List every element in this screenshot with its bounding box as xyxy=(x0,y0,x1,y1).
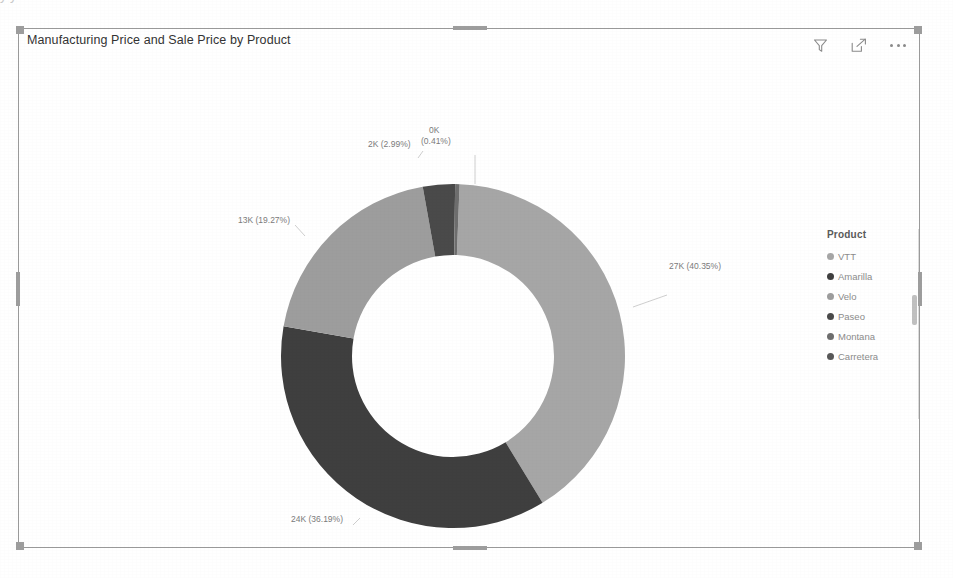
legend-scrollbar-thumb[interactable] xyxy=(912,295,917,325)
leader-line xyxy=(633,295,667,307)
resize-handle-top-right[interactable] xyxy=(914,26,922,34)
clipped-text: y y xyxy=(0,0,17,3)
report-visual-container[interactable]: Manufacturing Price and Sale Price by Pr… xyxy=(18,28,920,548)
legend-swatch-icon xyxy=(827,353,834,360)
legend-item-paseo[interactable]: Paseo xyxy=(827,307,905,325)
legend-swatch-icon xyxy=(827,293,834,300)
legend-item-label: Carretera xyxy=(838,351,878,362)
legend-divider xyxy=(918,229,919,419)
resize-handle-top-left[interactable] xyxy=(16,26,24,34)
visual-title: Manufacturing Price and Sale Price by Pr… xyxy=(27,33,291,47)
slice-label-velo: 13K (19.27%) xyxy=(238,215,290,225)
legend-item-carretera[interactable]: Carretera xyxy=(827,347,905,365)
visual-header: Manufacturing Price and Sale Price by Pr… xyxy=(19,29,919,59)
resize-handle-top-center[interactable] xyxy=(453,26,487,30)
slice-label-montana-value: 0K xyxy=(429,125,439,135)
leader-line xyxy=(418,151,423,158)
donut-slice-velo[interactable] xyxy=(284,187,436,339)
leader-line xyxy=(353,518,360,525)
donut-slice-amarilla[interactable] xyxy=(281,326,543,528)
legend: Product VTTAmarillaVeloPaseoMontanaCarre… xyxy=(827,229,905,367)
legend-item-vtt[interactable]: VTT xyxy=(827,247,905,265)
resize-handle-middle-left[interactable] xyxy=(16,272,20,306)
slice-label-amarilla: 24K (36.19%) xyxy=(291,514,343,524)
focus-mode-icon[interactable] xyxy=(848,34,870,56)
legend-item-label: Montana xyxy=(838,331,875,342)
legend-item-velo[interactable]: Velo xyxy=(827,287,905,305)
legend-items: VTTAmarillaVeloPaseoMontanaCarretera xyxy=(827,247,905,365)
legend-item-label: Velo xyxy=(838,291,857,302)
legend-item-montana[interactable]: Montana xyxy=(827,327,905,345)
legend-swatch-icon xyxy=(827,253,834,260)
slice-label-vtt: 27K (40.35%) xyxy=(669,261,721,271)
resize-handle-bottom-left[interactable] xyxy=(16,542,24,550)
legend-item-amarilla[interactable]: Amarilla xyxy=(827,267,905,285)
legend-item-label: Amarilla xyxy=(838,271,872,282)
leader-line xyxy=(295,225,305,236)
more-options-icon[interactable] xyxy=(887,34,909,56)
filter-icon[interactable] xyxy=(809,34,831,56)
legend-scrollbar[interactable] xyxy=(912,247,917,405)
legend-title: Product xyxy=(827,229,905,240)
resize-handle-middle-right[interactable] xyxy=(918,272,922,306)
resize-handle-bottom-right[interactable] xyxy=(914,542,922,550)
ellipsis-glyph xyxy=(890,44,906,47)
legend-swatch-icon xyxy=(827,313,834,320)
resize-handle-bottom-center[interactable] xyxy=(453,546,487,550)
legend-swatch-icon xyxy=(827,333,834,340)
slice-label-paseo: 2K (2.99%) xyxy=(368,139,411,149)
clipped-text-above-visual: y y xyxy=(0,0,953,20)
legend-swatch-icon xyxy=(827,273,834,280)
donut-chart-plot-area: 2K (2.99%) 0K (0.41%) 13K (19.27%) 27K (… xyxy=(19,59,859,547)
donut-slices xyxy=(281,184,625,528)
visual-header-actions xyxy=(809,34,909,56)
legend-item-label: Paseo xyxy=(838,311,865,322)
legend-item-label: VTT xyxy=(838,251,856,262)
slice-label-montana-percent: (0.41%) xyxy=(421,136,451,146)
